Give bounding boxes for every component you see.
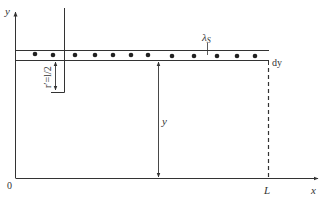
charge-dot (146, 53, 151, 58)
charge-dot (253, 54, 258, 59)
rod-distance-label: r′=l/2 (42, 66, 53, 88)
length-label: L (263, 184, 270, 196)
charge-dot (93, 53, 98, 58)
height-label: y (161, 115, 167, 127)
charge-dot (170, 54, 175, 59)
charge-dot (111, 53, 116, 58)
charge-dot (51, 53, 56, 58)
charge-density-label: λS (201, 31, 211, 45)
charge-dot (192, 54, 197, 59)
x-axis-label: x (310, 184, 316, 196)
lambda-subscript: S (207, 36, 211, 45)
charge-dots (33, 52, 258, 59)
origin-label: 0 (7, 180, 12, 191)
charge-dot (215, 54, 220, 59)
y-axis-label: y (4, 5, 10, 17)
physics-diagram: y x 0 L λS dy (0, 0, 323, 219)
charge-dot (33, 52, 38, 57)
strip-thickness-label: dy (272, 57, 282, 68)
charge-dot (235, 54, 240, 59)
charge-dot (73, 53, 78, 58)
charge-dot (129, 53, 134, 58)
